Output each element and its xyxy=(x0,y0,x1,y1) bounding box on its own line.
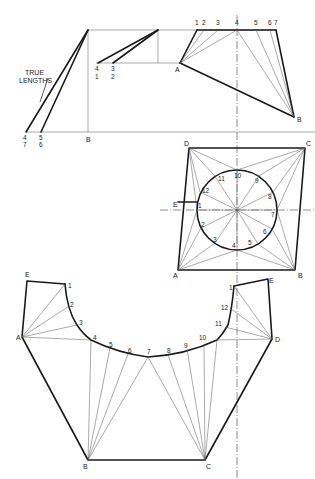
label-elev-b: B xyxy=(297,116,302,123)
label-elev-5: 5 xyxy=(254,19,258,26)
label-base-b: B xyxy=(86,136,91,143)
label-tl-3: 3 xyxy=(111,65,115,72)
label-plan-10: 10 xyxy=(234,172,242,179)
label-plan-5: 5 xyxy=(248,239,252,246)
label-plan-2: 2 xyxy=(201,221,205,228)
label-tl-1: 1 xyxy=(95,73,99,80)
label-plan-9: 9 xyxy=(255,177,259,184)
label-plan-d: D xyxy=(184,140,189,147)
label-dev-3: 3 xyxy=(79,319,83,326)
label-dev-e-left: E xyxy=(25,271,30,278)
label-base-5: 5 xyxy=(39,134,43,141)
label-dev-2: 2 xyxy=(70,301,74,308)
label-elev-7: 7 xyxy=(274,19,278,26)
label-base-6: 6 xyxy=(39,141,43,148)
label-plan-a: A xyxy=(173,272,178,279)
label-dev-a: A xyxy=(16,334,21,341)
label-elev-4: 4 xyxy=(235,19,239,26)
label-dev-c: C xyxy=(206,463,211,470)
label-plan-8: 8 xyxy=(268,193,272,200)
label-plan-12: 12 xyxy=(202,187,210,194)
label-dev-b: B xyxy=(83,463,88,470)
label-elev-6: 6 xyxy=(268,19,272,26)
label-dev-9: 9 xyxy=(184,342,188,349)
label-dev-1-right: 1 xyxy=(229,284,233,291)
label-plan-6: 6 xyxy=(263,228,267,235)
label-dev-4: 4 xyxy=(93,334,97,341)
label-plan-e: E xyxy=(173,201,178,208)
label-plan-c: C xyxy=(306,140,311,147)
development-pattern: E A B C D E 1 2 3 4 5 6 7 8 9 10 11 12 1 xyxy=(16,271,280,470)
label-tl-4: 4 xyxy=(95,65,99,72)
label-elev-1: 1 xyxy=(195,19,199,26)
label-dev-11: 11 xyxy=(215,320,222,327)
label-dev-1: 1 xyxy=(68,282,72,289)
label-dev-5: 5 xyxy=(109,341,113,348)
label-dev-d: D xyxy=(275,336,280,343)
label-plan-7: 7 xyxy=(271,211,275,218)
label-plan-3: 3 xyxy=(213,236,217,243)
elevation-view: 1 2 3 4 5 6 7 A B xyxy=(160,15,315,479)
label-dev-6: 6 xyxy=(128,347,132,354)
label-dev-10: 10 xyxy=(199,334,207,341)
label-dev-7: 7 xyxy=(147,348,151,355)
label-plan-1: 1 xyxy=(198,202,202,209)
label-elev-2: 2 xyxy=(202,19,206,26)
technical-drawing: TRUE LENGTHS 4 1 3 2 4 7 5 6 B 1 2 3 4 5… xyxy=(0,0,315,479)
label-plan-b: B xyxy=(298,272,303,279)
label-base-7: 7 xyxy=(23,141,27,148)
annotation-true: TRUE xyxy=(25,69,44,76)
label-elev-3: 3 xyxy=(216,19,220,26)
label-tl-2: 2 xyxy=(111,73,115,80)
label-plan-11: 11 xyxy=(218,175,225,182)
annotation-lengths: LENGTHS xyxy=(19,77,52,84)
label-elev-a: A xyxy=(175,66,180,73)
plan-view: D C A B E 1 2 3 4 5 6 7 8 9 10 11 12 xyxy=(160,140,315,279)
label-dev-e-right: E xyxy=(269,277,274,284)
label-dev-12: 12 xyxy=(221,304,229,311)
label-plan-4: 4 xyxy=(232,242,236,249)
label-dev-8: 8 xyxy=(167,347,171,354)
label-base-4: 4 xyxy=(23,134,27,141)
